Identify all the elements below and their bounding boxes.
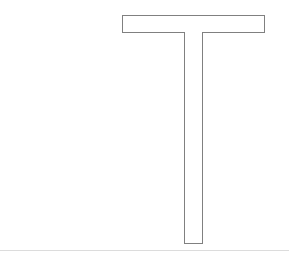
bottom-rule <box>0 250 289 251</box>
drawing-canvas <box>0 0 289 258</box>
t-shape-vertical-stem <box>184 33 203 244</box>
t-shape-figure <box>0 0 289 258</box>
t-shape-junction-fill <box>185 32 202 34</box>
t-shape-horizontal-bar <box>122 15 265 33</box>
